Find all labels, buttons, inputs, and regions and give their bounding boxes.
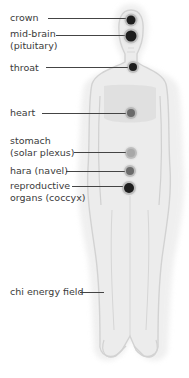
- label-stomach: stomach(solar plexus): [10, 135, 75, 159]
- leader-line-mid-brain: [56, 35, 125, 36]
- label-text: heart: [10, 107, 35, 119]
- chakra-dot-heart: [127, 109, 135, 117]
- leader-line-reproductive: [72, 186, 123, 187]
- leader-line-stomach: [74, 152, 126, 153]
- label-chi-energy-field: chi energy field: [10, 286, 84, 298]
- chakra-dot-crown: [127, 16, 136, 25]
- leader-line-heart: [42, 113, 126, 114]
- chakra-dot-stomach: [127, 149, 135, 157]
- label-text: hara (navel): [10, 165, 68, 177]
- label-mid-brain: mid-brain(pituitary): [10, 28, 58, 52]
- label-heart: heart: [10, 107, 35, 119]
- label-crown: crown: [10, 12, 39, 24]
- label-text: stomach: [10, 135, 75, 147]
- label-text: organs (coccyx): [10, 192, 86, 204]
- leader-line-chi-energy-field: [80, 292, 104, 293]
- chakra-dot-reproductive: [124, 183, 134, 193]
- chakra-dot-mid-brain: [126, 31, 137, 42]
- label-text: chi energy field: [10, 286, 84, 298]
- leader-line-hara: [66, 171, 125, 172]
- label-text: mid-brain: [10, 28, 58, 40]
- label-throat: throat: [10, 62, 39, 74]
- leader-line-throat: [46, 67, 128, 68]
- label-reproductive: reproductiveorgans (coccyx): [10, 180, 86, 204]
- label-text: (pituitary): [10, 40, 58, 52]
- chakra-dot-hara: [126, 167, 134, 175]
- label-text: (solar plexus): [10, 147, 75, 159]
- label-text: crown: [10, 12, 39, 24]
- leader-line-crown: [48, 18, 126, 19]
- label-text: throat: [10, 62, 39, 74]
- label-hara: hara (navel): [10, 165, 68, 177]
- chakra-dot-throat: [129, 63, 137, 71]
